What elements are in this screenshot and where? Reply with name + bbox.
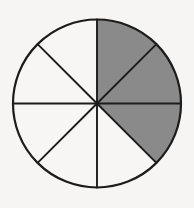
fraction-circle-diagram — [0, 0, 194, 208]
fraction-circle-figure — [0, 0, 194, 208]
